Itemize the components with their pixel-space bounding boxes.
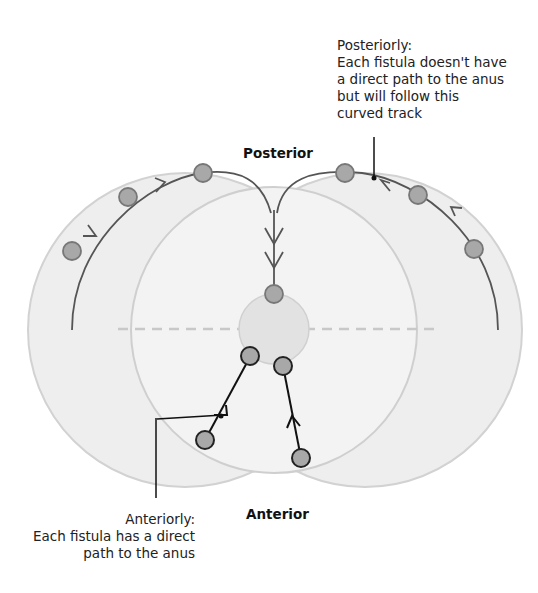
posterior-note-line: a direct path to the anus — [337, 71, 507, 88]
posterior-note-line: curved track — [337, 105, 507, 122]
anterior-note-line: path to the anus — [20, 545, 195, 562]
goodsalls-rule-diagram: Posterior Anterior Posteriorly: Each fis… — [0, 0, 538, 593]
anterior-label: Anterior — [246, 506, 309, 523]
anterior-note-line: Anteriorly: — [20, 511, 195, 528]
anterior-note-line: Each fistula has a direct — [20, 528, 195, 545]
posterior-label: Posterior — [243, 145, 313, 162]
posterior-note-line: Each fistula doesn't have — [337, 54, 507, 71]
posterior-note-line: but will follow this — [337, 88, 507, 105]
anterior-annotation: Anteriorly: Each fistula has a direct pa… — [20, 511, 195, 562]
posterior-annotation: Posteriorly: Each fistula doesn't have a… — [337, 37, 507, 122]
posterior-note-line: Posteriorly: — [337, 37, 507, 54]
anterior-pointer-dot — [219, 414, 224, 419]
